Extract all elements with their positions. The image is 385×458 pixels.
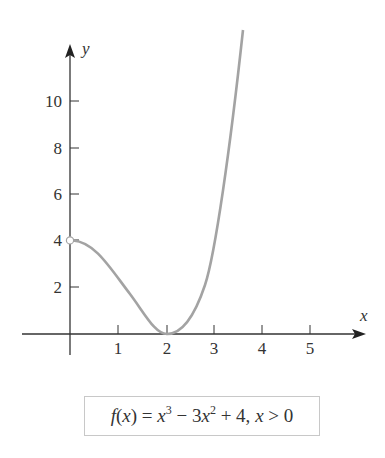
caption-var: x xyxy=(122,405,130,426)
x-tick-label: 5 xyxy=(306,339,315,358)
y-tick-label: 10 xyxy=(45,92,62,111)
x-tick-label: 3 xyxy=(210,339,219,358)
function-curve xyxy=(73,30,243,334)
y-tick-label: 6 xyxy=(54,185,63,204)
y-ticks xyxy=(70,101,79,287)
caption-text: + 4, xyxy=(216,405,255,426)
open-point-marker xyxy=(66,237,73,244)
x-tick-label: 2 xyxy=(163,339,172,358)
caption-text: > 0 xyxy=(264,405,294,426)
caption-f: f xyxy=(111,405,116,426)
function-caption: f(x) = x3 − 3x2 + 4, x > 0 xyxy=(84,396,320,436)
y-tick-label: 2 xyxy=(54,278,63,297)
caption-text: − 3 xyxy=(172,405,202,426)
caption-var: x xyxy=(157,405,165,426)
function-graph: 1 2 3 4 5 2 4 6 8 10 y x xyxy=(0,0,385,458)
caption-var: x xyxy=(201,405,209,426)
x-tick-label: 4 xyxy=(258,339,267,358)
x-ticks xyxy=(118,325,310,334)
y-tick-label: 4 xyxy=(54,231,63,250)
y-axis-label: y xyxy=(80,39,90,58)
y-tick-label: 8 xyxy=(54,139,63,158)
x-axis-label: x xyxy=(359,306,368,325)
caption-text: ) = xyxy=(131,405,158,426)
x-tick-label: 1 xyxy=(114,339,123,358)
caption-var: x xyxy=(255,405,263,426)
